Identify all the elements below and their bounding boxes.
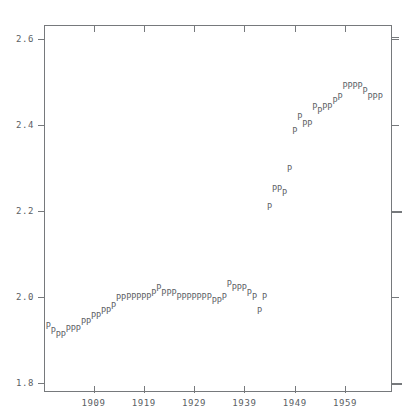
- y-tick-left-2.4: [38, 125, 45, 126]
- y-tick-right-top-edge: [391, 37, 399, 38]
- y-tick-left-1.8: [38, 383, 45, 384]
- x-tick-bottom-1949: [295, 386, 296, 393]
- data-point-marker: P: [378, 92, 383, 101]
- data-point-marker: P: [252, 293, 257, 302]
- x-tick-top-1949: [295, 25, 296, 32]
- x-tick-top-1939: [244, 25, 245, 32]
- data-point-marker: P: [287, 165, 292, 174]
- x-axis-label-1909: 1909: [81, 398, 105, 408]
- y-axis-label-1.8: 1.8: [0, 378, 34, 388]
- data-point-marker: P: [257, 307, 262, 316]
- x-axis-label-1929: 1929: [182, 398, 206, 408]
- x-tick-bottom-1929: [194, 386, 195, 393]
- data-point-marker: P: [267, 202, 272, 211]
- x-tick-top-1929: [194, 25, 195, 32]
- data-point-marker: P: [111, 301, 116, 310]
- x-tick-bottom-1909: [94, 386, 95, 393]
- plot-area: [44, 25, 392, 392]
- data-point-marker: P: [222, 293, 227, 302]
- x-tick-bottom-1939: [244, 386, 245, 393]
- x-tick-top-1959: [345, 25, 346, 32]
- scatter-chart: 1.82.02.22.42.6 190919191929193919491959…: [0, 0, 420, 416]
- y-tick-right-2.4: [391, 125, 399, 126]
- y-tick-right-1.8: [391, 383, 402, 385]
- y-tick-left-2.0: [38, 297, 45, 298]
- x-tick-bottom-1919: [144, 386, 145, 393]
- data-point-marker: P: [282, 189, 287, 198]
- data-point-marker: P: [262, 293, 267, 302]
- x-tick-top-1919: [144, 25, 145, 32]
- data-point-marker: P: [307, 119, 312, 128]
- x-axis-label-1919: 1919: [132, 398, 156, 408]
- y-tick-left-2.2: [38, 211, 45, 212]
- y-tick-right-2.0: [391, 297, 399, 298]
- y-tick-right-2.2: [391, 211, 402, 213]
- y-tick-right-2.6: [391, 39, 399, 40]
- y-axis-label-2.6: 2.6: [0, 34, 34, 44]
- x-axis-label-1959: 1959: [333, 398, 357, 408]
- data-point-marker: P: [337, 92, 342, 101]
- y-tick-left-2.6: [38, 39, 45, 40]
- x-tick-top-1909: [94, 25, 95, 32]
- data-point-marker: P: [292, 126, 297, 135]
- x-tick-bottom-1959: [345, 386, 346, 393]
- x-axis-label-1939: 1939: [232, 398, 256, 408]
- y-axis-label-2.0: 2.0: [0, 292, 34, 302]
- y-axis-label-2.2: 2.2: [0, 206, 34, 216]
- x-axis-label-1949: 1949: [283, 398, 307, 408]
- y-axis-label-2.4: 2.4: [0, 120, 34, 130]
